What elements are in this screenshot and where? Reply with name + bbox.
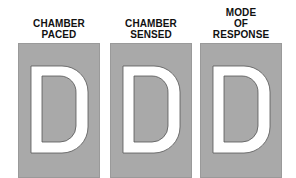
label-line: CHAMBER (18, 18, 100, 29)
label-line: CHAMBER (110, 18, 192, 29)
column-label: CHAMBER SENSED (110, 18, 192, 40)
code-box (200, 43, 282, 178)
label-line: OF (200, 18, 282, 29)
label-line: SENSED (110, 29, 192, 40)
column-label: CHAMBER PACED (18, 18, 100, 40)
column-chamber-paced: CHAMBER PACED (18, 0, 100, 178)
letter-d-icon (110, 43, 192, 178)
label-line: MODE (200, 7, 282, 18)
label-line: RESPONSE (200, 29, 282, 40)
letter-d-icon (18, 43, 100, 178)
label-line: PACED (18, 29, 100, 40)
code-box (110, 43, 192, 178)
code-box (18, 43, 100, 178)
column-mode-of-response: MODE OF RESPONSE (200, 0, 282, 178)
column-chamber-sensed: CHAMBER SENSED (110, 0, 192, 178)
letter-d-icon (200, 43, 282, 178)
column-label: MODE OF RESPONSE (200, 7, 282, 40)
